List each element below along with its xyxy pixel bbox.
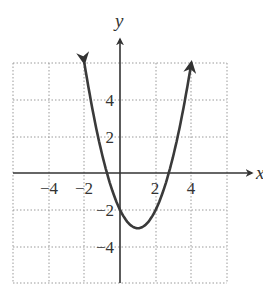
y-axis-label: y xyxy=(113,10,124,31)
y-tick-label: −2 xyxy=(96,201,114,220)
x-axis-label: x xyxy=(255,162,263,183)
x-tick-label: −4 xyxy=(40,179,59,198)
y-tick-label: 4 xyxy=(106,91,115,110)
y-tick-label: 2 xyxy=(106,128,115,147)
parabola-graph: y x −4 −2 2 4 4 2 −2 −4 xyxy=(0,0,263,290)
x-tick-label: 2 xyxy=(151,179,160,198)
y-tick-label: −4 xyxy=(96,238,115,257)
x-tick-label: −2 xyxy=(75,179,93,198)
x-tick-label: 4 xyxy=(187,179,196,198)
